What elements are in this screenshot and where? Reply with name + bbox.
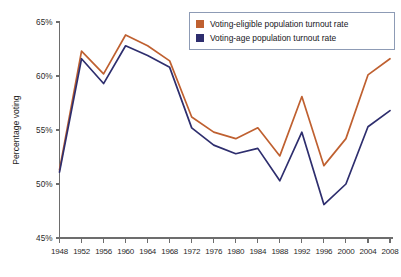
data-series-group xyxy=(60,35,391,205)
x-tick-label: 1984 xyxy=(249,247,267,256)
y-axis: 45%50%55%60%65% xyxy=(36,18,59,243)
x-tick-label: 1976 xyxy=(205,247,223,256)
y-tick-label: 45% xyxy=(36,234,52,243)
x-tick-label: 1964 xyxy=(139,247,157,256)
y-tick-label: 60% xyxy=(36,72,52,81)
legend-swatch-voting-age xyxy=(196,34,204,42)
chart-legend: Voting-eligible population turnout rate … xyxy=(189,12,395,50)
x-tick-label: 2008 xyxy=(382,247,400,256)
x-tick-label: 1996 xyxy=(316,247,334,256)
x-tick-label: 1980 xyxy=(227,247,245,256)
x-tick-label: 1948 xyxy=(51,247,69,256)
x-tick-label: 2004 xyxy=(360,247,378,256)
legend-swatch-voting-eligible xyxy=(196,20,204,28)
y-tick-label: 55% xyxy=(36,126,52,135)
legend-item-voting-eligible: Voting-eligible population turnout rate xyxy=(196,17,387,31)
chart-container: 45%50%55%60%65% 194819521956196019641968… xyxy=(0,0,401,277)
x-axis: 1948195219561960196419681972197619801984… xyxy=(51,238,399,256)
x-tick-label: 1968 xyxy=(161,247,179,256)
series-line-voting-age xyxy=(60,46,391,205)
x-tick-label: 1956 xyxy=(95,247,113,256)
y-tick-label: 50% xyxy=(36,180,52,189)
x-tick-label: 1972 xyxy=(183,247,201,256)
y-axis-title: Percentage voting xyxy=(11,95,21,164)
x-tick-label: 1952 xyxy=(73,247,91,256)
x-tick-label: 1988 xyxy=(271,247,289,256)
legend-label-voting-age: Voting-age population turnout rate xyxy=(210,33,336,43)
legend-item-voting-age: Voting-age population turnout rate xyxy=(196,31,387,45)
legend-label-voting-eligible: Voting-eligible population turnout rate xyxy=(210,19,348,29)
x-tick-label: 1960 xyxy=(117,247,135,256)
x-tick-label: 2000 xyxy=(338,247,356,256)
x-tick-label: 1992 xyxy=(293,247,311,256)
y-tick-label: 65% xyxy=(36,18,52,27)
